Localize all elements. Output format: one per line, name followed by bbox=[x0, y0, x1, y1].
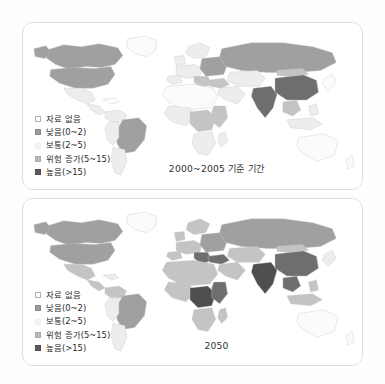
legend-item-high: 높음(>15) bbox=[35, 342, 147, 355]
legend-label-moderate: 보통(2~5) bbox=[46, 141, 86, 149]
legend-item-moderate: 보통(2~5) bbox=[35, 139, 147, 152]
legend-label-low: 낮음(0~2) bbox=[46, 304, 86, 312]
region-china bbox=[275, 250, 318, 276]
legend-projection: 자료 없음 낮음(0~2) 보통(2~5) 위험 증가(5~15) 높음(>15… bbox=[35, 288, 147, 355]
legend-label-high: 높음(>15) bbox=[46, 344, 86, 352]
legend-item-low: 낮음(0~2) bbox=[35, 125, 147, 138]
region-uk-ireland bbox=[174, 232, 185, 242]
legend-label-moderate: 보통(2~5) bbox=[46, 317, 86, 325]
legend-swatch-low bbox=[35, 305, 41, 311]
page-root: 자료 없음 낮음(0~2) 보통(2~5) 위험 증가(5~15) 높음(>15… bbox=[0, 0, 385, 384]
legend-item-no-data: 자료 없음 bbox=[35, 288, 147, 301]
region-uk-ireland bbox=[174, 56, 185, 66]
region-china bbox=[275, 74, 318, 100]
legend-baseline: 자료 없음 낮음(0~2) 보통(2~5) 위험 증가(5~15) 높음(>15… bbox=[35, 112, 147, 179]
legend-swatch-no-data bbox=[35, 292, 41, 298]
legend-swatch-high bbox=[35, 169, 41, 175]
legend-label-no-data: 자료 없음 bbox=[46, 291, 81, 299]
legend-swatch-increased-risk bbox=[35, 156, 41, 162]
map-card-baseline: 자료 없음 낮음(0~2) 보통(2~5) 위험 증가(5~15) 높음(>15… bbox=[22, 22, 363, 190]
legend-label-low: 낮음(0~2) bbox=[46, 128, 86, 136]
region-central-asia bbox=[228, 70, 266, 86]
legend-swatch-increased-risk bbox=[35, 332, 41, 338]
legend-swatch-high bbox=[35, 345, 41, 351]
region-central-asia bbox=[228, 246, 266, 262]
legend-item-moderate: 보통(2~5) bbox=[35, 315, 147, 328]
legend-swatch-no-data bbox=[35, 116, 41, 122]
map-card-projection: 자료 없음 낮음(0~2) 보통(2~5) 위험 증가(5~15) 높음(>15… bbox=[22, 198, 363, 366]
legend-label-increased-risk: 위험 증가(5~15) bbox=[46, 155, 110, 163]
legend-item-no-data: 자료 없음 bbox=[35, 112, 147, 125]
region-philippines bbox=[309, 280, 319, 292]
legend-swatch-moderate bbox=[35, 143, 41, 149]
legend-swatch-low bbox=[35, 129, 41, 135]
legend-item-low: 낮음(0~2) bbox=[35, 301, 147, 314]
legend-label-no-data: 자료 없음 bbox=[46, 115, 81, 123]
legend-swatch-moderate bbox=[35, 319, 41, 325]
legend-item-increased-risk: 위험 증가(5~15) bbox=[35, 328, 147, 341]
legend-item-increased-risk: 위험 증가(5~15) bbox=[35, 152, 147, 165]
legend-label-increased-risk: 위험 증가(5~15) bbox=[46, 331, 110, 339]
legend-item-high: 높음(>15) bbox=[35, 166, 147, 179]
legend-label-high: 높음(>15) bbox=[46, 168, 86, 176]
region-philippines bbox=[309, 104, 319, 116]
